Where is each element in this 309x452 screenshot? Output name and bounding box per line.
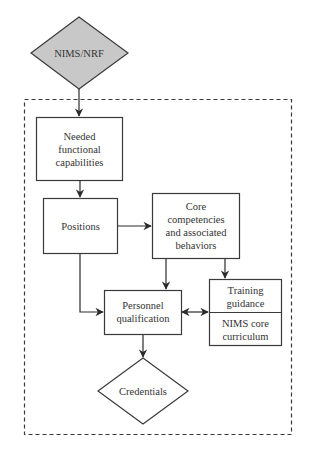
flowchart: NIMS/NRF Needed functional capabilities … bbox=[0, 0, 309, 452]
training-guidance-box: Training guidance NIMS core curriculum bbox=[210, 280, 282, 346]
core-label-line-4: behaviors bbox=[176, 240, 217, 251]
arrow-positions-to-personnel bbox=[80, 254, 103, 312]
core-label-line-2: competencies bbox=[167, 214, 224, 225]
positions-box: Positions bbox=[44, 199, 118, 254]
needed-label-line-2: functional bbox=[58, 144, 101, 155]
personnel-label-line-1: Personnel bbox=[122, 300, 163, 311]
nims-nrf-label: NIMS/NRF bbox=[54, 48, 104, 59]
credentials-diamond: Credentials bbox=[98, 358, 188, 424]
core-label-line-3: and associated bbox=[166, 227, 228, 238]
credentials-label: Credentials bbox=[119, 386, 167, 397]
core-label-line-1: Core bbox=[186, 201, 207, 212]
needed-capabilities-box: Needed functional capabilities bbox=[37, 118, 123, 181]
personnel-qualification-box: Personnel qualification bbox=[105, 291, 182, 335]
training-label-line-2: guidance bbox=[227, 298, 265, 309]
nims-nrf-diamond: NIMS/NRF bbox=[31, 17, 128, 89]
nims-core-label-line-1: NIMS core bbox=[222, 318, 269, 329]
needed-label-line-3: capabilities bbox=[56, 157, 104, 168]
training-label-line-1: Training bbox=[228, 285, 265, 296]
needed-label-line-1: Needed bbox=[63, 131, 96, 142]
personnel-label-line-2: qualification bbox=[116, 313, 170, 324]
core-competencies-box: Core competencies and associated behavio… bbox=[153, 194, 240, 259]
positions-label: Positions bbox=[61, 221, 100, 232]
nims-core-label-line-2: curriculum bbox=[222, 331, 268, 342]
